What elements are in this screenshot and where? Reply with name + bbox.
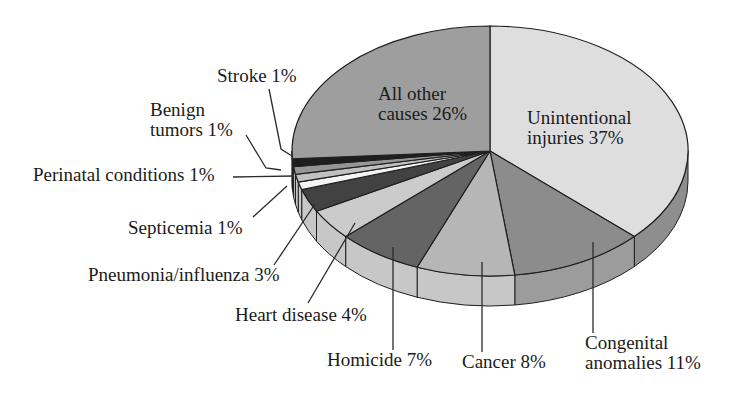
slice-label-heart-disease: Heart disease 4%: [235, 305, 367, 325]
slice-label-benign-tumors: Benign tumors 1%: [150, 100, 247, 140]
slice-label-congenital-anomalies: Congenital anomalies 11%: [585, 333, 720, 373]
slice-label-homicide: Homicide 7%: [327, 350, 432, 370]
slice-label-unintentional-injuries: Unintentional injuries 37%: [527, 108, 655, 148]
slice-label-cancer: Cancer 8%: [462, 352, 546, 372]
slice-label-all-other-causes: All other causes 26%: [378, 84, 482, 124]
leader-line-stroke: [269, 89, 292, 156]
slice-label-septicemia: Septicemia 1%: [128, 218, 243, 238]
leader-line-benign-tumors: [246, 135, 281, 170]
leader-line-pneumonia-influenza: [274, 204, 315, 265]
slice-label-stroke: Stroke 1%: [217, 66, 297, 86]
leader-line-septicemia: [253, 186, 287, 217]
leader-line-perinatal-conditions: [233, 176, 294, 177]
slice-label-perinatal-conditions: Perinatal conditions 1%: [33, 165, 215, 185]
pie-chart-figure: Stroke 1% Benign tumors 1% Perinatal con…: [0, 0, 740, 397]
slice-label-pneumonia-influenza: Pneumonia/influenza 3%: [88, 265, 280, 285]
